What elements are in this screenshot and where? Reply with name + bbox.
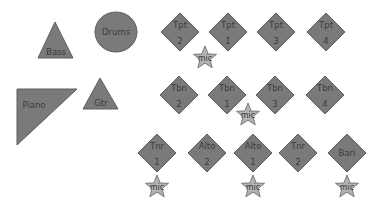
mic-bari: mic: [336, 175, 359, 197]
sax-number: 1: [250, 157, 255, 167]
sax-label: Bari: [339, 148, 356, 158]
trombone-number: 3: [272, 99, 277, 109]
trombone-number: 1: [224, 99, 229, 109]
stage-plot: Bass Drums Piano Gtr Tpt 2 Tpt 1 Tpt 3: [0, 0, 384, 206]
trumpet-label: Tpt: [220, 20, 236, 30]
trumpet-4: Tpt 4: [307, 13, 345, 51]
trombone-number: 4: [322, 99, 327, 109]
mic-label: mic: [198, 54, 212, 63]
trumpet-number: 1: [225, 36, 230, 46]
mic-tnr1: mic: [146, 175, 169, 197]
trumpet-1: Tpt 1: [209, 13, 247, 51]
sax-label: Alto: [245, 141, 262, 151]
tenor-1: Tnr 1: [138, 134, 176, 172]
piano: Piano: [17, 89, 77, 145]
sax-number: 2: [204, 157, 209, 167]
trumpet-label: Tpt: [172, 20, 188, 30]
trombone-label: Tbn: [170, 83, 187, 93]
sax-label: Tnr: [290, 141, 306, 151]
bass-label: Bass: [46, 47, 66, 57]
drums: Drums: [95, 12, 137, 52]
bari: Bari: [328, 134, 366, 172]
trumpet-number: 4: [323, 36, 328, 46]
mic-label: mic: [340, 183, 354, 192]
sax-section: Tnr 1 Alto 2 Alto 1 Tnr 2 Bari: [138, 134, 366, 172]
trumpet-label: Tpt: [268, 20, 284, 30]
sax-label: Alto: [199, 141, 216, 151]
mics: mic mic mic mic mic: [146, 46, 359, 197]
trombone-label: Tbn: [266, 83, 283, 93]
sax-label: Tnr: [149, 141, 165, 151]
trumpet-label: Tpt: [318, 20, 334, 30]
bass-amp: Bass: [38, 22, 73, 58]
alto-1: Alto 1: [234, 134, 272, 172]
trumpet-3: Tpt 3: [257, 13, 295, 51]
trumpet-number: 3: [273, 36, 278, 46]
trombone-1: Tbn 1: [208, 76, 246, 114]
trumpet-number: 2: [177, 36, 182, 46]
mic-label: mic: [241, 111, 255, 120]
tenor-2: Tnr 2: [279, 134, 317, 172]
trombone-2: Tbn 2: [160, 76, 198, 114]
mic-alto1: mic: [242, 175, 265, 197]
mic-tpt1: mic: [194, 46, 217, 68]
mic-label: mic: [150, 183, 164, 192]
trombone-number: 2: [176, 99, 181, 109]
trumpet-section: Tpt 2 Tpt 1 Tpt 3 Tpt 4: [161, 13, 345, 51]
trombone-3: Tbn 3: [256, 76, 294, 114]
trombone-label: Tbn: [218, 83, 235, 93]
trombone-4: Tbn 4: [306, 76, 344, 114]
right-triangle-icon: [17, 89, 77, 145]
trombone-section: Tbn 2 Tbn 1 Tbn 3 Tbn 4: [160, 76, 344, 114]
piano-label: Piano: [22, 100, 45, 110]
guitar-amp: Gtr: [83, 78, 118, 109]
alto-2: Alto 2: [188, 134, 226, 172]
mic-label: mic: [246, 183, 260, 192]
trumpet-2: Tpt 2: [161, 13, 199, 51]
sax-number: 2: [295, 157, 300, 167]
drums-label: Drums: [102, 27, 131, 37]
trombone-label: Tbn: [316, 83, 333, 93]
sax-number: 1: [154, 157, 159, 167]
mic-tbn1: mic: [237, 103, 260, 125]
guitar-label: Gtr: [94, 98, 108, 108]
